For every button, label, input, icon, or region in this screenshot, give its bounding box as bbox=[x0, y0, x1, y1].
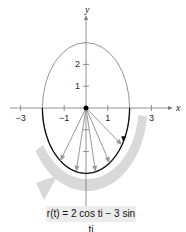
y-tick-label: 1 bbox=[75, 81, 80, 91]
vector-arrowhead bbox=[105, 157, 110, 163]
origin-point bbox=[84, 106, 89, 111]
x-tick-label: −3 bbox=[15, 113, 25, 123]
sweep-arrowhead bbox=[36, 175, 58, 200]
position-vector bbox=[86, 108, 120, 143]
position-vector bbox=[86, 108, 95, 169]
y-tick-label: 2 bbox=[75, 59, 80, 69]
x-tick-label: 3 bbox=[149, 113, 154, 123]
y-axis-arrow bbox=[84, 15, 88, 20]
y-axis-label: y bbox=[84, 4, 90, 15]
sweep-arrow bbox=[36, 115, 148, 200]
x-axis-label: x bbox=[175, 102, 181, 113]
vector-diagram: xy−3−11312 bbox=[0, 0, 186, 232]
equation-caption: r(t) = 2 cos ti − 3 sin tj bbox=[46, 206, 136, 222]
x-tick-label: −1 bbox=[59, 113, 69, 123]
x-axis-arrow bbox=[168, 106, 173, 110]
x-tick-label: 1 bbox=[105, 113, 110, 123]
